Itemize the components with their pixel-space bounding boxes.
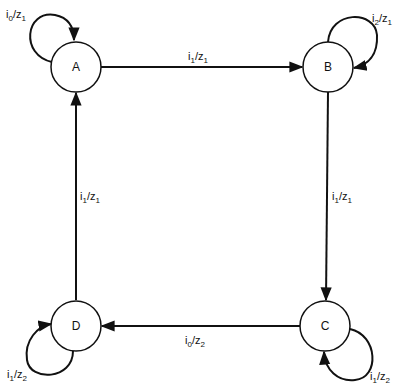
state-a-label: A xyxy=(72,60,80,74)
label-loop-b: i2/z1 xyxy=(372,12,392,27)
label-c-to-d: i0/z2 xyxy=(185,334,205,349)
label-d-to-a: i1/z1 xyxy=(80,190,100,205)
state-d: D xyxy=(51,301,101,351)
state-c-label: C xyxy=(321,319,330,333)
state-c: C xyxy=(300,301,350,351)
label-loop-d: i1/z2 xyxy=(7,368,27,383)
label-loop-a: i0/z1 xyxy=(6,8,26,23)
state-a: A xyxy=(51,42,101,92)
label-a-to-b: i1/z1 xyxy=(188,50,208,65)
state-diagram: A B C D i1/z1 i1/z1 i0/z2 i1/z1 i0/z1 i2… xyxy=(0,0,399,388)
state-b: B xyxy=(303,42,353,92)
state-d-label: D xyxy=(72,319,81,333)
state-b-label: B xyxy=(324,60,332,74)
label-b-to-c: i1/z1 xyxy=(332,190,352,205)
label-loop-c: i1/z2 xyxy=(370,370,390,385)
edge-b-to-c xyxy=(326,92,328,300)
